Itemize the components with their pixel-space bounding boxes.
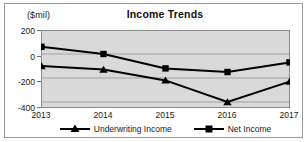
triangle-marker-icon <box>60 124 90 134</box>
series-net-income <box>41 44 290 76</box>
square-marker <box>162 65 168 71</box>
square-marker-icon <box>194 124 224 134</box>
chart-legend: Underwriting Income Net Income <box>41 122 290 136</box>
series-plot <box>41 30 290 108</box>
square-marker <box>41 44 45 50</box>
x-tick-label-2014: 2014 <box>83 110 123 120</box>
legend-label-net-income: Net Income <box>228 124 271 134</box>
y-axis-unit-label: ($mil) <box>27 10 50 20</box>
legend-item-net-income[interactable]: Net Income <box>194 124 271 134</box>
y-tick-label-0: 0 <box>13 52 35 62</box>
chart-title: Income Trends <box>100 8 230 20</box>
x-tick-label-2016: 2016 <box>207 110 247 120</box>
y-tick-label-200: 200 <box>13 26 35 36</box>
square-marker <box>286 59 290 65</box>
x-tick-label-2015: 2015 <box>145 110 185 120</box>
square-marker <box>224 69 230 75</box>
triangle-marker <box>285 78 290 85</box>
square-marker <box>100 51 106 57</box>
x-tick-label-2017: 2017 <box>269 110 307 120</box>
chart-figure: ($mil) Income Trends 200 0 -200 -400 201… <box>0 0 307 142</box>
legend-item-underwriting-income[interactable]: Underwriting Income <box>60 124 172 134</box>
y-tick-label-neg200: -200 <box>13 77 35 87</box>
legend-label-underwriting-income: Underwriting Income <box>94 124 172 134</box>
x-tick-label-2013: 2013 <box>21 110 61 120</box>
